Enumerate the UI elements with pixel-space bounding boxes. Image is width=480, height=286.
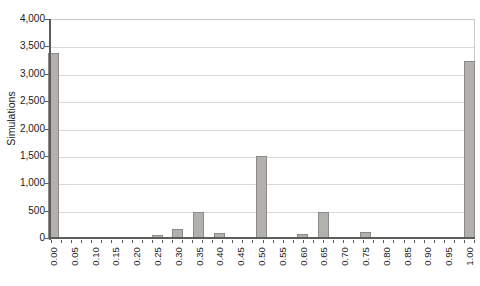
- x-tick: [353, 240, 354, 243]
- x-tick: [474, 240, 475, 243]
- x-tick: [434, 240, 435, 243]
- x-tick: [61, 240, 62, 243]
- x-tick-label: 0.00: [48, 242, 59, 272]
- x-tick: [81, 240, 82, 243]
- gridline: [51, 130, 474, 131]
- y-axis-line: [49, 19, 51, 240]
- x-tick-label: 0.25: [152, 242, 163, 272]
- y-tick-label: 2,500: [2, 95, 45, 106]
- y-tick: [45, 19, 49, 20]
- x-tick: [333, 240, 334, 243]
- x-tick: [454, 240, 455, 243]
- x-tick: [464, 240, 465, 243]
- x-tick: [232, 240, 233, 243]
- y-tick-label: 3,500: [2, 40, 45, 51]
- bar: [464, 61, 475, 239]
- bar: [193, 212, 204, 239]
- y-axis-title: Simulations: [5, 83, 18, 155]
- x-tick: [111, 240, 112, 243]
- y-tick: [45, 101, 49, 102]
- x-tick: [273, 240, 274, 243]
- x-tick: [71, 240, 72, 243]
- x-tick-label: 0.85: [401, 242, 412, 272]
- x-tick-label: 0.60: [297, 242, 308, 272]
- x-tick: [393, 240, 394, 243]
- x-tick-label: 1.00: [464, 242, 475, 272]
- bar-chart-figure: Simulations 05001,0001,5002,0002,5003,00…: [0, 0, 480, 286]
- x-tick: [283, 240, 284, 243]
- x-tick-label: 0.35: [193, 242, 204, 272]
- x-tick: [172, 240, 173, 243]
- y-tick-label: 1,500: [2, 150, 45, 161]
- x-tick: [363, 240, 364, 243]
- y-tick-label: 4,000: [2, 13, 45, 24]
- x-tick: [263, 240, 264, 243]
- x-tick-label: 0.45: [235, 242, 246, 272]
- x-tick: [444, 240, 445, 243]
- x-tick: [242, 240, 243, 243]
- x-tick: [142, 240, 143, 243]
- x-tick: [293, 240, 294, 243]
- gridline: [51, 47, 474, 48]
- y-tick: [45, 46, 49, 47]
- x-tick: [313, 240, 314, 243]
- plot-area: [51, 19, 475, 239]
- y-tick: [45, 238, 49, 239]
- y-tick: [45, 211, 49, 212]
- y-tick-label: 3,000: [2, 68, 45, 79]
- x-tick: [192, 240, 193, 243]
- x-tick: [162, 240, 163, 243]
- x-tick: [212, 240, 213, 243]
- x-tick-label: 0.10: [89, 242, 100, 272]
- x-tick: [414, 240, 415, 243]
- x-tick: [202, 240, 203, 243]
- x-tick: [222, 240, 223, 243]
- x-tick: [404, 240, 405, 243]
- x-tick-label: 0.90: [422, 242, 433, 272]
- x-tick: [152, 240, 153, 243]
- y-tick: [45, 74, 49, 75]
- x-tick-label: 0.80: [380, 242, 391, 272]
- y-tick-label: 500: [2, 205, 45, 216]
- x-tick: [323, 240, 324, 243]
- x-axis-line: [49, 237, 475, 239]
- x-tick-label: 0.15: [110, 242, 121, 272]
- x-tick-label: 0.30: [172, 242, 183, 272]
- x-tick: [424, 240, 425, 243]
- x-tick-label: 0.75: [360, 242, 371, 272]
- x-tick-label: 0.50: [256, 242, 267, 272]
- y-tick-label: 0: [2, 232, 45, 243]
- x-tick: [343, 240, 344, 243]
- x-tick: [51, 240, 52, 243]
- x-tick: [182, 240, 183, 243]
- bar: [256, 156, 267, 239]
- y-tick-label: 1,000: [2, 177, 45, 188]
- y-tick: [45, 183, 49, 184]
- x-tick: [122, 240, 123, 243]
- bar: [318, 212, 329, 239]
- x-tick-label: 0.70: [339, 242, 350, 272]
- x-tick: [303, 240, 304, 243]
- x-tick: [132, 240, 133, 243]
- y-tick: [45, 156, 49, 157]
- x-tick: [101, 240, 102, 243]
- x-tick-label: 0.95: [443, 242, 454, 272]
- y-tick-label: 2,000: [2, 123, 45, 134]
- gridline: [51, 102, 474, 103]
- x-tick: [383, 240, 384, 243]
- x-tick-label: 0.20: [131, 242, 142, 272]
- x-tick-label: 0.40: [214, 242, 225, 272]
- x-tick-label: 0.55: [276, 242, 287, 272]
- y-tick: [45, 129, 49, 130]
- x-tick-label: 0.05: [68, 242, 79, 272]
- x-tick-label: 0.65: [318, 242, 329, 272]
- gridline: [51, 75, 474, 76]
- x-tick: [373, 240, 374, 243]
- x-tick: [91, 240, 92, 243]
- x-tick: [252, 240, 253, 243]
